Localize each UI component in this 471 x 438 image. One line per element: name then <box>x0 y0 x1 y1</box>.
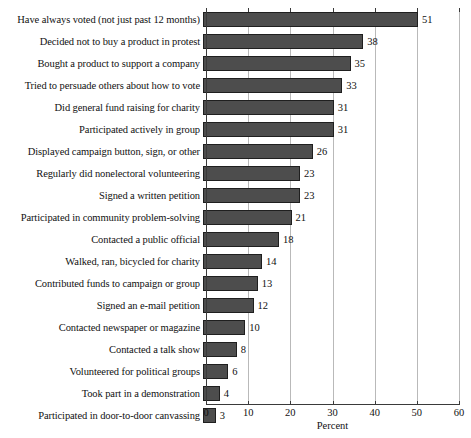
bar-cell: 51 <box>203 8 471 30</box>
bar-category-label: Signed an e-mail petition <box>0 300 203 311</box>
bar-row: Participated in community problem-solvin… <box>0 206 471 228</box>
x-axis-title: Percent <box>206 420 459 432</box>
bar-row: Bought a product to support a company35 <box>0 52 471 74</box>
x-axis-tick <box>290 401 291 405</box>
bar-value-label: 13 <box>262 278 273 289</box>
bar <box>203 254 262 269</box>
bar-cell: 12 <box>203 294 471 316</box>
bar-category-label: Volunteered for political groups <box>0 366 203 377</box>
bar <box>203 100 334 115</box>
bar-cell: 31 <box>203 96 471 118</box>
bar-cell: 23 <box>203 184 471 206</box>
bar-chart: Have always voted (not just past 12 mont… <box>0 0 471 438</box>
bar-row: Volunteered for political groups6 <box>0 360 471 382</box>
x-axis-tick-label: 50 <box>412 407 423 419</box>
bar <box>203 210 292 225</box>
x-axis-tick <box>417 401 418 405</box>
bar-category-label: Tried to persuade others about how to vo… <box>0 80 203 91</box>
bar-row: Contributed funds to campaign or group13 <box>0 272 471 294</box>
bar-value-label: 14 <box>266 256 277 267</box>
bar-value-label: 26 <box>317 146 328 157</box>
bar-category-label: Contacted a public official <box>0 234 203 245</box>
bar-value-label: 6 <box>232 366 237 377</box>
bar-cell: 13 <box>203 272 471 294</box>
bar-category-label: Took part in a demonstration <box>0 388 203 399</box>
bar-cell: 10 <box>203 316 471 338</box>
bar-row: Signed an e-mail petition12 <box>0 294 471 316</box>
bar-category-label: Contacted newspaper or magazine <box>0 322 203 333</box>
bar-category-label: Participated in door-to-door canvassing <box>0 410 203 421</box>
x-axis-tick-top <box>375 8 376 12</box>
bar-row: Signed a written petition23 <box>0 184 471 206</box>
bar-category-label: Participated in community problem-solvin… <box>0 212 203 223</box>
bar <box>203 12 418 27</box>
x-axis-tick-top <box>333 8 334 12</box>
bar <box>203 144 313 159</box>
bar <box>203 34 363 49</box>
x-axis-tick <box>333 401 334 405</box>
bar-value-label: 21 <box>296 212 307 223</box>
bar-cell: 4 <box>203 382 471 404</box>
bar-cell: 23 <box>203 162 471 184</box>
bar-value-label: 8 <box>241 344 246 355</box>
bar-value-label: 4 <box>224 388 229 399</box>
bar-value-label: 18 <box>283 234 294 245</box>
x-axis-tick-top <box>417 8 418 12</box>
bar-row: Walked, ran, bicycled for charity14 <box>0 250 471 272</box>
bar-category-label: Decided not to buy a product in protest <box>0 36 203 47</box>
bar-value-label: 51 <box>422 14 433 25</box>
bar-category-label: Signed a written petition <box>0 190 203 201</box>
bar-category-label: Contacted a talk show <box>0 344 203 355</box>
bar-cell: 26 <box>203 140 471 162</box>
bar-row: Tried to persuade others about how to vo… <box>0 74 471 96</box>
bar-category-label: Contributed funds to campaign or group <box>0 278 203 289</box>
bar-value-label: 33 <box>346 80 357 91</box>
bar-row: Decided not to buy a product in protest3… <box>0 30 471 52</box>
bar-row: Contacted newspaper or magazine10 <box>0 316 471 338</box>
x-axis-tick-top <box>459 8 460 12</box>
bar-value-label: 12 <box>258 300 269 311</box>
bar <box>203 166 300 181</box>
x-axis-tick-top <box>206 8 207 12</box>
bar-cell: 18 <box>203 228 471 250</box>
bar-value-label: 23 <box>304 168 315 179</box>
bar-value-label: 35 <box>355 58 366 69</box>
x-axis-tick-label: 20 <box>285 407 296 419</box>
bar <box>203 188 300 203</box>
bar-value-label: 3 <box>220 410 225 421</box>
bar-cell: 21 <box>203 206 471 228</box>
bar-category-label: Participated actively in group <box>0 124 203 135</box>
x-axis-tick-label: 60 <box>454 407 465 419</box>
bar <box>203 122 334 137</box>
bar-value-label: 31 <box>338 102 349 113</box>
x-axis-tick <box>459 401 460 405</box>
bar-category-label: Have always voted (not just past 12 mont… <box>0 14 203 25</box>
x-axis-tick <box>206 401 207 405</box>
bar-value-label: 23 <box>304 190 315 201</box>
x-axis-tick-label: 10 <box>243 407 254 419</box>
x-axis-tick-top <box>290 8 291 12</box>
bar <box>203 342 237 357</box>
bar-cell: 31 <box>203 118 471 140</box>
bar-category-label: Walked, ran, bicycled for charity <box>0 256 203 267</box>
x-axis-tick-label: 0 <box>203 407 208 419</box>
bar-category-label: Bought a product to support a company <box>0 58 203 69</box>
bar <box>203 232 279 247</box>
bar-cell: 8 <box>203 338 471 360</box>
x-axis-tick-label: 30 <box>327 407 338 419</box>
bar-row: Regularly did nonelectoral volunteering2… <box>0 162 471 184</box>
bar-row: Did general fund raising for charity31 <box>0 96 471 118</box>
x-axis-tick <box>248 401 249 405</box>
bar <box>203 78 342 93</box>
x-axis-tick <box>375 401 376 405</box>
bar-rows: Have always voted (not just past 12 mont… <box>0 8 471 426</box>
bar-row: Displayed campaign button, sign, or othe… <box>0 140 471 162</box>
bar <box>203 276 258 291</box>
bar-cell: 6 <box>203 360 471 382</box>
bar-category-label: Did general fund raising for charity <box>0 102 203 113</box>
y-axis-line <box>206 8 207 404</box>
x-axis-tick-top <box>248 8 249 12</box>
bar-value-label: 31 <box>338 124 349 135</box>
bar-row: Have always voted (not just past 12 mont… <box>0 8 471 30</box>
bar-row: Participated actively in group31 <box>0 118 471 140</box>
